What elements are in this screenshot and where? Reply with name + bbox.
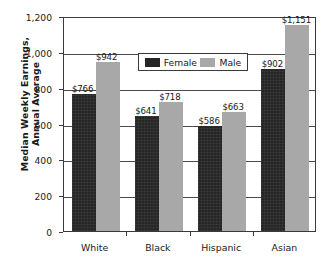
- x-axis-tick-mark: [190, 232, 191, 236]
- x-axis-tick-label-white: White: [81, 242, 108, 253]
- legend-label-female: Female: [164, 57, 197, 68]
- x-axis-tick-mark: [253, 232, 254, 236]
- x-axis: WhiteBlackHispanicAsian: [63, 232, 316, 258]
- x-axis-tick-label-asian: Asian: [272, 242, 298, 253]
- y-axis-tick-label: 200: [34, 191, 52, 202]
- x-axis-tick-label-black: Black: [145, 242, 170, 253]
- legend: Female Male: [138, 53, 248, 71]
- y-axis-tick-label: 600: [34, 119, 52, 130]
- bar-white-male: [96, 62, 120, 231]
- bar-black-female: [135, 116, 159, 231]
- bar-chart: Median Weekly Earnings, Annual Average 0…: [0, 0, 324, 258]
- value-label-white-male: $942: [96, 52, 117, 62]
- bar-hispanic-female: [198, 126, 222, 231]
- bar-hispanic-male: [222, 112, 246, 231]
- plot-area: [63, 17, 316, 232]
- value-label-white-female: $766: [72, 84, 93, 94]
- bar-asian-male: [285, 25, 309, 231]
- legend-swatch-female-icon: [145, 58, 160, 67]
- y-axis-tick-label: 0: [46, 227, 52, 238]
- y-axis-ticks: 02004006008001,0001,200: [0, 0, 58, 258]
- value-label-hispanic-female: $586: [198, 116, 219, 126]
- legend-entry-male: Male: [200, 57, 241, 68]
- y-axis-tick-label: 1,200: [26, 12, 52, 23]
- legend-label-male: Male: [219, 57, 241, 68]
- value-label-asian-male: $1,151: [282, 15, 311, 25]
- y-axis-tick-label: 400: [34, 155, 52, 166]
- y-axis-tick-label: 800: [34, 83, 52, 94]
- value-label-asian-female: $902: [262, 59, 283, 69]
- value-label-hispanic-male: $663: [222, 102, 243, 112]
- legend-swatch-male-icon: [200, 58, 215, 67]
- y-axis-tick-label: 1,000: [26, 47, 52, 58]
- x-axis-tick-label-hispanic: Hispanic: [201, 242, 241, 253]
- bar-asian-female: [261, 69, 285, 231]
- value-label-black-male: $718: [159, 92, 180, 102]
- bar-black-male: [159, 102, 183, 231]
- value-label-black-female: $641: [135, 106, 156, 116]
- bar-white-female: [72, 94, 96, 231]
- legend-entry-female: Female: [145, 57, 197, 68]
- bars-layer: [64, 18, 315, 231]
- x-axis-tick-mark: [126, 232, 127, 236]
